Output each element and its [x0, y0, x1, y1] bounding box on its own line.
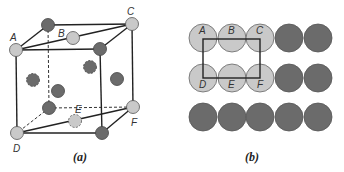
panel-a-cube: A B C D E F (a): [9, 6, 140, 164]
label-e: E: [75, 104, 82, 115]
cube-edge: [48, 24, 132, 25]
atom-row1-5: [304, 24, 332, 52]
atom-face-right: [111, 73, 124, 86]
atom-row3-1: [189, 103, 217, 131]
label-b-f: F: [257, 79, 264, 90]
hidden-edge: [49, 107, 133, 108]
atom-a: [10, 44, 23, 57]
label-b-e: E: [228, 79, 235, 90]
panel-b-plane: A B C D E F (b): [189, 24, 332, 164]
atom-row3-3: [246, 103, 274, 131]
label-b: B: [58, 28, 65, 39]
atom-corner-bottom-front-right: [96, 127, 109, 140]
hidden-edge: [48, 25, 49, 108]
cube-edge: [132, 24, 133, 107]
atom-d: [11, 127, 24, 140]
cube-edge: [16, 49, 100, 50]
atom-row1-4: [275, 24, 303, 52]
atom-c: [126, 18, 139, 31]
label-b-b: B: [228, 25, 235, 36]
label-d: D: [13, 143, 20, 154]
atom-face-front: [52, 85, 65, 98]
atom-row3-4: [275, 103, 303, 131]
label-a: A: [9, 32, 17, 43]
atom-corner-top-front-right: [94, 43, 107, 56]
atom-face-back: [84, 61, 97, 74]
atom-e: [69, 115, 82, 128]
cube-edge: [100, 49, 102, 133]
atom-row3-5: [304, 103, 332, 131]
label-b-d: D: [199, 79, 206, 90]
atom-corner-top-back-left: [42, 19, 55, 32]
caption-a: (a): [73, 150, 87, 164]
label-b-c: C: [256, 25, 264, 36]
atom-face-left: [27, 74, 40, 87]
atom-corner-bottom-back-left: [43, 102, 56, 115]
cube-edge: [16, 50, 17, 133]
atom-b: [67, 32, 80, 45]
label-c: C: [127, 6, 135, 17]
atom-row2-4: [275, 64, 303, 92]
figure: A B C D E F (a) A B C D E F (: [0, 0, 344, 172]
atom-row3-2: [218, 103, 246, 131]
atom-row2-5: [304, 64, 332, 92]
caption-b: (b): [245, 150, 259, 164]
label-f: F: [131, 117, 138, 128]
label-b-a: A: [198, 25, 206, 36]
atom-f: [127, 101, 140, 114]
